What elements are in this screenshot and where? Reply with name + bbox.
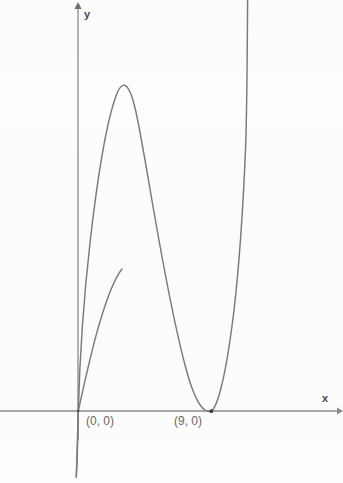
x-axis-arrow-icon — [337, 407, 343, 414]
y-axis-label: y — [84, 8, 90, 20]
origin-point-label: (0, 0) — [86, 414, 114, 428]
x-axis-label: x — [322, 392, 328, 404]
double-root-point-label: (9, 0) — [174, 414, 202, 428]
curve-segment-lower-left — [76, 269, 122, 477]
curve-path — [76, 0, 247, 477]
cubic-curve — [76, 0, 247, 477]
graph-figure: y x (0, 0) (9, 0) — [0, 0, 343, 483]
point-marker-double-root — [209, 409, 213, 413]
x-axis — [0, 407, 343, 414]
y-axis-arrow-icon — [74, 2, 81, 9]
y-axis — [74, 2, 81, 440]
point-marker-origin — [77, 410, 80, 413]
plot-canvas — [0, 0, 343, 483]
